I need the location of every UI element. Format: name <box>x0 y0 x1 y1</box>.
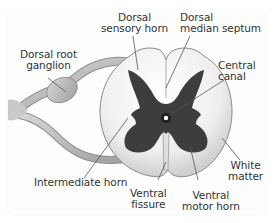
label-ventral-motor-horn: Ventralmotor horn <box>182 190 240 212</box>
label-central-canal: Centralcanal <box>218 60 256 82</box>
label-dorsal-median-septum: Dorsalmedian septum <box>180 12 261 34</box>
label-dorsal-root-ganglion: Dorsal rootganglion <box>20 49 77 71</box>
label-dorsal-sensory-horn: Dorsalsensory horn <box>101 12 168 34</box>
label-white-matter: Whitematter <box>228 160 263 182</box>
label-ventral-fissure: Ventralfissure <box>130 188 167 210</box>
label-intermediate-horn: Intermediate horn <box>34 177 127 188</box>
